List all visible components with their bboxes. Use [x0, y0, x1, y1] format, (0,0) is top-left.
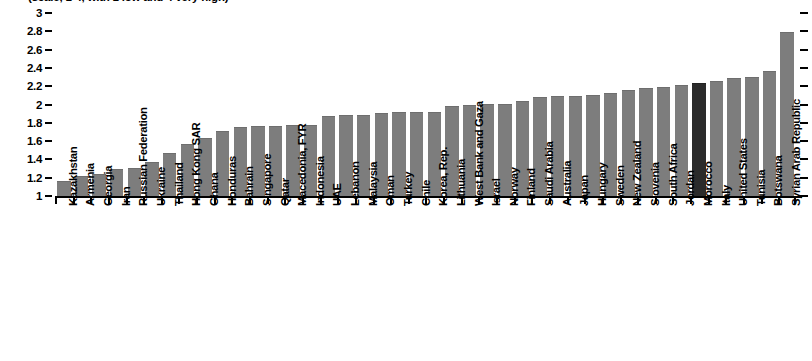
y-axis-tick-label: 2.6: [27, 44, 42, 56]
y-axis-tick-label: 1.4: [27, 153, 42, 165]
x-axis-label: Slovenia: [650, 162, 661, 206]
x-axis-label: Turkey: [403, 172, 414, 206]
x-axis-label-cell: Armenia: [73, 204, 91, 359]
y-axis: 11.21.41.61.822.22.42.62.83: [0, 0, 55, 210]
x-axis-label-cell: Jordan: [672, 204, 690, 359]
x-axis-label-cell: Kazakhstan: [55, 204, 73, 359]
x-axis-label-cell: Honduras: [214, 204, 232, 359]
x-axis-label: West Bank and Gaza: [474, 101, 485, 206]
x-axis-label: Italy: [721, 185, 732, 206]
x-axis-label-cell: Finland: [514, 204, 532, 359]
x-axis-label: UAE: [332, 183, 343, 206]
y-axis-right-tick-mark: [800, 85, 808, 87]
x-axis-label-cell: Turkey: [390, 204, 408, 359]
y-axis-tick-mark: [45, 140, 52, 142]
bar-cell: [390, 13, 408, 196]
x-axis-labels: KazakhstanArmeniaGeorgiaIranRussian Fede…: [55, 204, 796, 359]
y-axis-right-tick-mark: [800, 158, 808, 160]
y-axis-tick: 2.8: [0, 25, 52, 37]
x-axis-label-cell: Tunisia: [743, 204, 761, 359]
x-axis-label: Honduras: [227, 156, 238, 206]
y-axis-tick: 2.2: [0, 80, 52, 92]
x-axis-label-cell: Sweden: [602, 204, 620, 359]
x-axis-label: New Zealand: [632, 141, 643, 206]
x-axis-label: Jordan: [685, 170, 696, 206]
x-axis-label: Oman: [385, 175, 396, 206]
chart-title: (scale, 1-4, with 1 low and 4 very high): [28, 0, 228, 3]
y-axis-right-tick-mark: [800, 30, 808, 32]
x-axis-label-cell: Saudi Arabia: [531, 204, 549, 359]
y-axis-tick-mark: [45, 122, 52, 124]
y-axis-tick: 2: [0, 99, 52, 111]
x-axis-label: Norway: [509, 167, 520, 206]
y-axis-tick-label: 1.6: [27, 135, 42, 147]
x-axis-label-cell: Qatar: [267, 204, 285, 359]
x-axis-label-cell: Malaysia: [355, 204, 373, 359]
x-axis-label-cell: Morocco: [690, 204, 708, 359]
x-axis-label: Ghana: [209, 173, 220, 206]
x-axis-label-cell: Indonesia: [302, 204, 320, 359]
x-axis-label: Bahrain: [244, 166, 255, 206]
y-axis-right-tick-mark: [800, 195, 808, 197]
x-axis-label: Russian Federation: [138, 107, 149, 206]
x-axis-label-cell: Russian Federation: [126, 204, 144, 359]
x-axis-label: Kazakhstan: [68, 147, 79, 206]
y-axis-right-tick-mark: [800, 104, 808, 106]
y-axis-tick-mark: [45, 49, 52, 51]
x-axis-label: Armenia: [85, 163, 96, 206]
y-axis-tick-label: 1.2: [27, 172, 42, 184]
x-axis-label: Georgia: [103, 166, 114, 206]
y-axis-tick-label: 3: [36, 7, 42, 19]
x-axis-label-cell: Ghana: [196, 204, 214, 359]
x-axis-label-cell: Syrian Arab Republic: [778, 204, 796, 359]
y-axis-tick: 1.8: [0, 117, 52, 129]
x-axis-label-cell: Lithuania: [443, 204, 461, 359]
y-axis-right-tick-mark: [800, 67, 808, 69]
y-axis-tick: 1: [0, 190, 52, 202]
y-axis-right-tick-mark: [800, 49, 808, 51]
x-axis-label: Chile: [421, 180, 432, 206]
x-axis-label: Macedonia, FYR: [297, 124, 308, 206]
x-axis-label-cell: Slovenia: [637, 204, 655, 359]
x-axis-label-cell: Japan: [567, 204, 585, 359]
x-axis-label: Malaysia: [368, 162, 379, 206]
x-axis-label-cell: Singapore: [249, 204, 267, 359]
y-axis-tick-mark: [45, 67, 52, 69]
bar-chart: (scale, 1-4, with 1 low and 4 very high)…: [0, 0, 812, 361]
y-axis-tick-label: 1: [36, 190, 42, 202]
x-axis-label-cell: Macedonia, FYR: [284, 204, 302, 359]
x-axis-label: Japan: [579, 175, 590, 206]
y-axis-tick-mark: [45, 85, 52, 87]
y-axis-tick-mark: [45, 30, 52, 32]
x-axis-label: Hungary: [597, 163, 608, 206]
x-axis-label-cell: Italy: [708, 204, 726, 359]
x-axis-label-cell: Ukraine: [143, 204, 161, 359]
x-axis-label: Ukraine: [156, 167, 167, 206]
x-axis-label-cell: Botswana: [761, 204, 779, 359]
x-axis-label-cell: Chile: [408, 204, 426, 359]
y-axis-tick-mark: [45, 12, 52, 14]
x-axis-label: United States: [738, 138, 749, 206]
x-axis-label-cell: United States: [725, 204, 743, 359]
x-axis-label-cell: Hungary: [584, 204, 602, 359]
x-axis-label-cell: Hong Kong SAR: [178, 204, 196, 359]
x-axis-label: Lithuania: [456, 159, 467, 206]
x-axis-label-cell: South Africa: [655, 204, 673, 359]
x-axis-label-cell: Lebanon: [337, 204, 355, 359]
x-axis-label: Botswana: [773, 155, 784, 206]
y-axis-tick-mark: [45, 158, 52, 160]
x-axis-label: Indonesia: [315, 156, 326, 206]
y-axis-tick-mark: [45, 195, 52, 197]
x-axis-label: Israel: [491, 179, 502, 206]
y-axis-tick-label: 2.8: [27, 25, 42, 37]
x-axis-label: Qatar: [280, 178, 291, 206]
y-axis-right-tick-mark: [800, 122, 808, 124]
x-axis-label-cell: Norway: [496, 204, 514, 359]
y-axis-tick: 1.4: [0, 153, 52, 165]
x-axis-label-cell: Israel: [478, 204, 496, 359]
y-axis-tick-label: 2: [36, 99, 42, 111]
x-axis-label-cell: Georgia: [90, 204, 108, 359]
y-axis-tick-label: 2.4: [27, 62, 42, 74]
y-axis-tick-label: 1.8: [27, 117, 42, 129]
y-axis-tick-mark: [45, 177, 52, 179]
